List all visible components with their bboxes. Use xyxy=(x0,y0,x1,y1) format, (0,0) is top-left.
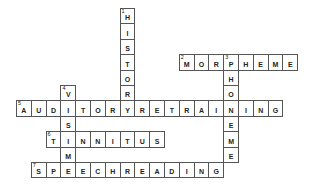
cell-letter: H xyxy=(239,61,253,69)
cell-letter: O xyxy=(195,61,209,69)
crossword-cell[interactable]: I xyxy=(179,162,195,178)
cell-letter: E xyxy=(135,168,149,176)
cell-letter: H xyxy=(121,14,135,22)
cell-letter: T xyxy=(121,61,135,69)
cell-letter: H xyxy=(224,76,238,84)
crossword-cell[interactable]: Y xyxy=(120,100,136,116)
crossword-cell[interactable]: G xyxy=(268,100,284,116)
crossword-cell[interactable]: S xyxy=(149,131,165,147)
crossword-cell[interactable]: O xyxy=(120,70,136,86)
crossword-cell[interactable]: E xyxy=(223,116,239,132)
cell-letter: T xyxy=(121,138,135,146)
crossword-cell[interactable]: E xyxy=(134,162,150,178)
cell-letter: T xyxy=(165,107,179,115)
crossword-cell[interactable]: 7S xyxy=(31,162,47,178)
crossword-cell[interactable]: M xyxy=(60,147,76,163)
cell-letter: M xyxy=(269,61,283,69)
crossword-cell[interactable]: R xyxy=(208,54,224,70)
cell-letter: S xyxy=(32,168,46,176)
crossword-grid: 1HISTORY2MOR3PHEMEHONEME4VISIME5AUDTORRE… xyxy=(0,0,310,187)
crossword-cell[interactable]: H xyxy=(223,70,239,86)
crossword-cell[interactable]: 6T xyxy=(46,131,62,147)
cell-letter: I xyxy=(61,138,75,146)
crossword-cell[interactable]: T xyxy=(120,54,136,70)
crossword-cell[interactable]: 1H xyxy=(120,8,136,24)
crossword-cell[interactable]: T xyxy=(164,100,180,116)
cell-letter: T xyxy=(76,107,90,115)
crossword-cell[interactable]: S xyxy=(120,39,136,55)
cell-letter: M xyxy=(180,61,194,69)
crossword-cell[interactable]: C xyxy=(90,162,106,178)
cell-letter: E xyxy=(283,61,297,69)
cell-letter: E xyxy=(254,61,268,69)
cell-letter: P xyxy=(224,61,238,69)
cell-letter: C xyxy=(91,168,105,176)
crossword-cell[interactable]: U xyxy=(31,100,47,116)
crossword-cell[interactable]: T xyxy=(120,131,136,147)
crossword-cell[interactable]: M xyxy=(268,54,284,70)
cell-letter: S xyxy=(150,138,164,146)
crossword-cell[interactable]: M xyxy=(223,131,239,147)
cell-letter: N xyxy=(254,107,268,115)
crossword-cell[interactable]: O xyxy=(90,100,106,116)
crossword-cell[interactable]: O xyxy=(223,85,239,101)
crossword-cell[interactable]: I xyxy=(60,100,76,116)
crossword-cell[interactable]: A xyxy=(194,100,210,116)
cell-letter: I xyxy=(61,107,75,115)
crossword-cell[interactable]: N xyxy=(75,131,91,147)
cell-letter: E xyxy=(76,168,90,176)
crossword-cell[interactable]: E xyxy=(253,54,269,70)
cell-letter: R xyxy=(209,61,223,69)
cell-letter: N xyxy=(224,107,238,115)
cell-letter: E xyxy=(224,122,238,130)
crossword-cell[interactable]: D xyxy=(164,162,180,178)
crossword-cell[interactable]: E xyxy=(60,162,76,178)
crossword-cell[interactable]: 3P xyxy=(223,54,239,70)
crossword-cell[interactable]: 5A xyxy=(16,100,32,116)
cell-letter: S xyxy=(121,45,135,53)
crossword-cell[interactable]: I xyxy=(60,131,76,147)
crossword-cell[interactable]: D xyxy=(46,100,62,116)
crossword-cell[interactable]: N xyxy=(90,131,106,147)
crossword-cell[interactable]: R xyxy=(179,100,195,116)
crossword-cell[interactable]: G xyxy=(208,162,224,178)
cell-letter: T xyxy=(47,138,61,146)
cell-letter: I xyxy=(209,107,223,115)
crossword-cell[interactable]: H xyxy=(105,162,121,178)
crossword-cell[interactable]: T xyxy=(75,100,91,116)
cell-letter: G xyxy=(269,107,283,115)
cell-letter: E xyxy=(224,153,238,161)
cell-letter: G xyxy=(209,168,223,176)
crossword-cell[interactable]: E xyxy=(223,147,239,163)
cell-letter: E xyxy=(150,107,164,115)
cell-letter: D xyxy=(47,107,61,115)
cell-letter: O xyxy=(121,76,135,84)
crossword-cell[interactable]: N xyxy=(223,100,239,116)
crossword-cell[interactable]: U xyxy=(134,131,150,147)
crossword-cell[interactable]: R xyxy=(105,100,121,116)
cell-letter: S xyxy=(61,122,75,130)
crossword-cell[interactable]: I xyxy=(105,131,121,147)
crossword-cell[interactable]: N xyxy=(194,162,210,178)
crossword-cell[interactable]: R xyxy=(120,162,136,178)
crossword-cell[interactable]: 2M xyxy=(179,54,195,70)
crossword-cell[interactable]: I xyxy=(238,100,254,116)
crossword-cell[interactable]: P xyxy=(46,162,62,178)
crossword-cell[interactable]: R xyxy=(134,100,150,116)
cell-letter: N xyxy=(195,168,209,176)
crossword-cell[interactable]: R xyxy=(120,85,136,101)
cell-letter: I xyxy=(106,138,120,146)
crossword-cell[interactable]: 4V xyxy=(60,85,76,101)
crossword-cell[interactable]: I xyxy=(208,100,224,116)
crossword-cell[interactable]: E xyxy=(282,54,298,70)
crossword-cell[interactable]: H xyxy=(238,54,254,70)
cell-letter: R xyxy=(121,168,135,176)
crossword-cell[interactable]: A xyxy=(149,162,165,178)
crossword-cell[interactable]: S xyxy=(60,116,76,132)
crossword-cell[interactable]: E xyxy=(75,162,91,178)
crossword-cell[interactable]: I xyxy=(120,23,136,39)
crossword-cell[interactable]: E xyxy=(149,100,165,116)
cell-letter: R xyxy=(180,107,194,115)
crossword-cell[interactable]: O xyxy=(194,54,210,70)
crossword-cell[interactable]: N xyxy=(253,100,269,116)
